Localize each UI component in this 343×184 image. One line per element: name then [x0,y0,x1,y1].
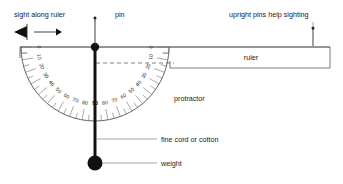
protractor-minor-tick [53,103,56,108]
plumb-line-group [88,43,103,171]
protractor-major-tick [157,58,168,60]
upright-pins-label: upright pins help sighting [229,10,309,19]
protractor-minor-tick [24,65,30,67]
protractor-scale-right-60: 60 [119,92,127,100]
protractor-minor-tick [34,86,39,89]
protractor-scale-left-30: 30 [42,71,50,79]
diagram-canvas: ruler 0102030405060708090010203040506070… [0,0,343,184]
ruler-label: ruler [244,53,259,62]
protractor-scale-left-70: 70 [72,96,80,104]
protractor-scale-left-80: 80 [82,99,89,106]
protractor-major-tick [106,109,108,120]
protractor-minor-tick [101,115,102,121]
protractor-scale-right-20: 20 [144,62,152,70]
ruler-outline [20,47,330,68]
protractor-minor-tick [76,113,78,119]
weight-label: weight [160,159,182,168]
protractor-minor-tick [113,113,115,119]
protractor-scale-right-80: 80 [101,99,108,106]
protractor-major-tick [31,79,41,85]
protractor-minor-tick [28,76,33,79]
sighting-icon-group [14,24,62,40]
protractor-minor-tick [157,76,162,79]
protractor-scale-left-10: 10 [36,53,43,60]
protractor-scale-left-50: 50 [55,86,63,94]
protractor-group: 01020304050607080900102030405060708090 p… [21,45,205,121]
protractor-major-tick [117,106,121,116]
protractor-scale-right-10: 10 [147,53,154,60]
protractor-minor-tick [89,115,90,121]
protractor-minor-tick [143,95,147,99]
clinometer-diagram: ruler 0102030405060708090010203040506070… [0,0,343,184]
protractor-right-zero-box [163,47,169,53]
protractor-major-tick [22,58,33,60]
pins-group [94,17,315,47]
protractor-left-zero-box [21,47,27,53]
protractor-scale-right-0: 0 [148,45,154,48]
protractor-major-tick [143,88,151,95]
protractor-minor-tick [134,103,137,108]
protractor-major-tick [127,102,133,112]
fine-cord-label: fine cord or cotton [161,135,219,144]
protractor-minor-tick [64,109,67,114]
protractor-scale-right-70: 70 [111,96,119,104]
protractor-minor-tick [161,65,167,67]
protractor-major-tick [82,109,84,120]
arrow-right-icon-head [56,29,62,36]
protractor-major-tick [25,69,35,73]
protractor-major-tick [58,102,64,112]
protractor-minor-tick [151,86,156,89]
protractor-label: protractor [174,94,205,103]
protractor-major-tick [154,69,164,73]
ruler-group: ruler [20,47,330,68]
protractor-major-tick [47,95,54,103]
protractor-scale-left-60: 60 [63,92,71,100]
protractor-scale-right-30: 30 [140,71,148,79]
pin-label: pin [115,10,125,19]
sight-along-ruler-label: sight along ruler [14,10,66,19]
protractor-scale-left-0: 0 [36,46,42,49]
weight-ball [88,156,103,171]
protractor-scale-right-50: 50 [127,86,135,94]
protractor-major-tick [70,106,74,116]
protractor-major-tick [136,95,143,103]
protractor-minor-tick [124,109,127,114]
eye-icon [14,26,27,38]
protractor-scale-right-40: 40 [134,79,142,87]
protractor-scale-left-40: 40 [48,79,56,87]
protractor-minor-tick [43,95,47,99]
protractor-major-tick [150,79,160,85]
protractor-scale-left-20: 20 [38,63,46,71]
protractor-major-tick [38,88,46,95]
